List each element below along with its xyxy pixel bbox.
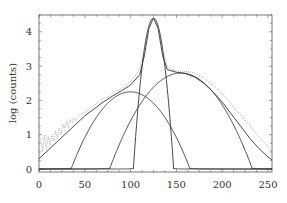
y-tick-label: 3	[26, 61, 32, 72]
series-layer	[39, 18, 273, 169]
x-axis-ticks: 050100150200250	[36, 15, 278, 190]
series-left-broad-component	[39, 92, 273, 169]
series-total-fit	[39, 18, 273, 160]
chart-canvas: 050100150200250 01234 log (counts)	[0, 0, 287, 203]
y-axis-ticks: 01234	[26, 15, 272, 175]
x-tick-label: 250	[258, 179, 277, 190]
series-narrow-component	[39, 18, 273, 169]
y-axis-title: log (counts)	[7, 63, 18, 123]
x-tick-label: 50	[78, 179, 91, 190]
y-tick-label: 0	[26, 164, 32, 175]
plot-frame	[39, 15, 272, 172]
y-tick-label: 1	[26, 129, 32, 140]
x-tick-label: 0	[36, 179, 42, 190]
y-tick-label: 2	[26, 95, 32, 106]
x-tick-label: 100	[121, 179, 140, 190]
x-tick-label: 150	[167, 179, 186, 190]
x-tick-label: 200	[213, 179, 232, 190]
series-right-broad-component	[39, 73, 273, 169]
y-tick-label: 4	[26, 26, 32, 37]
